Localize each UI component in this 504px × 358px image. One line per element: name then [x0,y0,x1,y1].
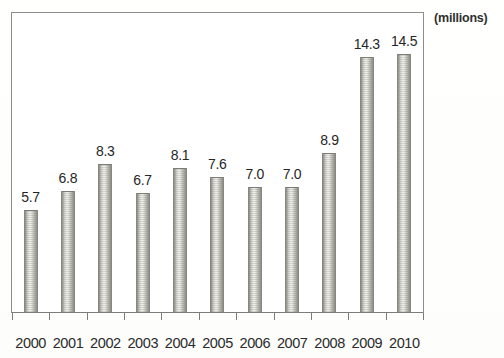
bar-cap [249,187,261,188]
bar-value-label: 6.8 [49,170,86,186]
x-axis-category-label: 2009 [347,335,387,351]
bar-group [348,13,385,313]
plot-area: 5.76.88.36.78.17.67.07.08.914.314.5 2000… [12,13,423,313]
bar-cap [62,191,74,192]
bar-group [12,13,49,313]
x-axis-category-label: 2000 [11,335,51,351]
bar-cap [25,210,37,211]
x-axis-category-label: 2006 [235,335,275,351]
x-axis-tick [311,313,312,320]
bar [285,187,299,312]
bar-group [386,13,423,313]
bar [61,191,75,312]
bar-value-label: 7.6 [199,156,236,172]
x-axis-tick [161,313,162,320]
bar-group [49,13,86,313]
x-axis-category-label: 2002 [85,335,125,351]
bar-cap [137,193,149,194]
bar [210,177,224,312]
bar [136,193,150,312]
bar-group [161,13,198,313]
bar-value-label: 8.9 [311,132,348,148]
bar [24,210,38,312]
bar-cap [211,177,223,178]
bar-value-label: 6.7 [124,172,161,188]
bar-cap [323,153,335,154]
bar-value-label: 7.0 [274,166,311,182]
x-axis-tick [348,313,349,320]
bar-cap [286,187,298,188]
x-axis-category-label: 2001 [48,335,88,351]
bar-value-label: 5.7 [12,189,49,205]
x-axis-tick [236,313,237,320]
x-axis-category-label: 2004 [160,335,200,351]
bar [98,164,112,312]
x-axis-tick [199,313,200,320]
x-axis-category-label: 2003 [123,335,163,351]
bar-value-label: 14.5 [386,33,423,49]
chart-page: (millions) 5.76.88.36.78.17.67.07.08.914… [0,0,504,358]
bar-cap [398,54,410,55]
x-axis-category-label: 2010 [384,335,424,351]
x-axis-tick [124,313,125,320]
bar-cap [361,57,373,58]
x-axis-tick [12,313,13,320]
bar-cap [99,164,111,165]
bar-group [311,13,348,313]
x-axis-tick [49,313,50,320]
x-axis-tick [87,313,88,320]
units-caption: (millions) [434,11,488,25]
bar-group [124,13,161,313]
x-axis-tick [423,313,424,320]
bar-value-label: 7.0 [236,166,273,182]
bar [173,168,187,312]
bar [360,57,374,312]
bar-value-label: 8.3 [87,143,124,159]
x-axis-tick [274,313,275,320]
bar [397,54,411,312]
bar [322,153,336,312]
bar [248,187,262,312]
x-axis-category-label: 2007 [272,335,312,351]
bar-value-label: 8.1 [161,147,198,163]
x-axis-category-label: 2008 [310,335,350,351]
bar-value-label: 14.3 [348,36,385,52]
x-axis-tick [386,313,387,320]
bar-group [236,13,273,313]
x-axis-category-label: 2005 [198,335,238,351]
bar-group [87,13,124,313]
bar-cap [174,168,186,169]
bar-group [274,13,311,313]
